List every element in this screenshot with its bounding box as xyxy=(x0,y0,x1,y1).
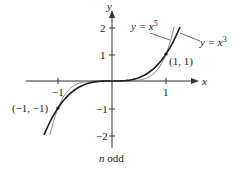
chart-caption: n odd xyxy=(99,152,124,164)
x-tick-label: 1 xyxy=(163,86,169,98)
point-neg1-neg1 xyxy=(56,106,59,109)
y-tick-label: −1 xyxy=(96,103,108,115)
x-tick-label: −1 xyxy=(52,86,64,98)
point-label-1-1: (1, 1) xyxy=(169,55,193,68)
y-axis-label: y xyxy=(106,0,112,12)
x3-leader-line xyxy=(180,33,200,41)
point-1-1 xyxy=(164,52,167,55)
y-tick-label: −2 xyxy=(96,130,108,142)
y-tick-label: 2 xyxy=(100,22,106,34)
point-label-neg1-neg1: (−1, −1) xyxy=(12,102,49,115)
x-axis-arrow-icon xyxy=(191,78,199,84)
x-axis-label: x xyxy=(201,75,207,87)
x5-curve-label: y = x5 xyxy=(130,19,158,33)
x5-leader-line xyxy=(150,33,170,40)
odd-power-functions-chart: x y −1 1 2 1 −1 −2 (1, 1) (−1, −1) y = x… xyxy=(0,0,240,175)
y-tick-label: 1 xyxy=(100,49,106,61)
x3-curve-label: y = x3 xyxy=(199,35,227,49)
